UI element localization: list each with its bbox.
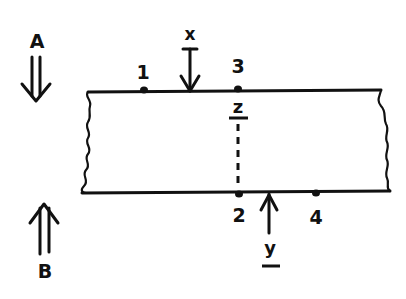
y-label: y (264, 237, 276, 258)
A-label: A (30, 30, 45, 52)
x-load-arrow-icon (181, 49, 199, 91)
beam-right-break (379, 90, 390, 191)
point-4-label: 4 (309, 206, 322, 228)
A-double-arrow-down-icon (22, 57, 50, 101)
x-label: x (185, 24, 196, 44)
point-1-marker (140, 87, 148, 94)
point-2-marker (235, 191, 243, 198)
beam-diagram: z 1 3 2 4 x y A B (0, 0, 406, 299)
B-double-arrow-up-icon (30, 204, 58, 254)
y-load-arrow-icon (261, 194, 277, 233)
point-4-marker (312, 190, 320, 197)
B-label: B (38, 260, 52, 282)
point-3-label: 3 (231, 55, 244, 77)
beam-left-break (82, 92, 91, 193)
point-2-label: 2 (232, 204, 245, 226)
point-1-label: 1 (136, 61, 149, 83)
point-3-marker (234, 86, 242, 93)
points (140, 86, 320, 198)
z-label: z (233, 96, 243, 117)
